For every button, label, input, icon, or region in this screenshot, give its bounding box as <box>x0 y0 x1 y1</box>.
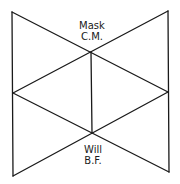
center-vertical <box>91 52 92 133</box>
label-top: Mask C.M. <box>72 20 112 42</box>
label-bottom-line2: B.F. <box>73 155 113 166</box>
label-bottom: Will B.F. <box>73 144 113 166</box>
left-edge <box>12 12 13 176</box>
label-top-line2: C.M. <box>72 31 112 42</box>
diagram-canvas: Mask C.M. Will B.F. <box>0 0 180 184</box>
label-bottom-line1: Will <box>73 144 113 155</box>
label-top-line1: Mask <box>72 20 112 31</box>
